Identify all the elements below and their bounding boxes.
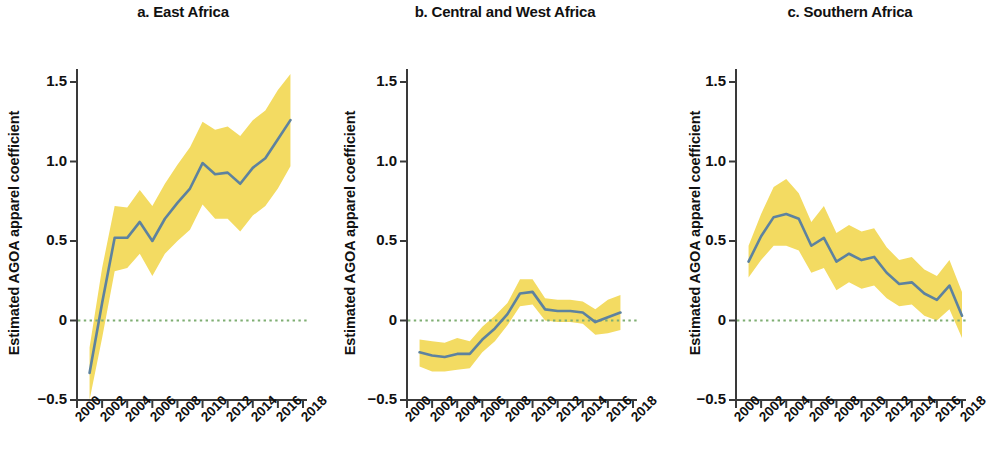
y-axis-tick-label: 0.5: [11, 231, 67, 248]
confidence-band: [749, 179, 962, 338]
y-axis-tick-label: 1.0: [341, 152, 397, 169]
panel-southern-africa: c. Southern Africa Estimated AGOA appare…: [659, 0, 989, 470]
figure-panels-agoa: a. East Africa Estimated AGOA apparel co…: [0, 0, 989, 470]
y-axis-tick-label: 0.5: [670, 231, 726, 248]
y-axis-tick-label: 0: [670, 311, 726, 328]
y-axis-tick-label: 0: [11, 311, 67, 328]
y-axis-tick-label: 1.0: [670, 152, 726, 169]
y-axis-tick-label: 1.0: [11, 152, 67, 169]
y-axis-tick-label: 0: [341, 311, 397, 328]
y-axis-tick-label: −0.5: [670, 390, 726, 407]
y-axis-tick-label: 1.5: [670, 72, 726, 89]
y-axis-tick-label: 1.5: [11, 72, 67, 89]
panel-east-africa: a. East Africa Estimated AGOA apparel co…: [0, 0, 330, 470]
y-axis-tick-label: −0.5: [341, 390, 397, 407]
y-axis-tick-label: 1.5: [341, 72, 397, 89]
y-axis-tick-label: −0.5: [11, 390, 67, 407]
y-axis-tick-label: 0.5: [341, 231, 397, 248]
panel-central-west-africa: b. Central and West Africa Estimated AGO…: [330, 0, 660, 470]
